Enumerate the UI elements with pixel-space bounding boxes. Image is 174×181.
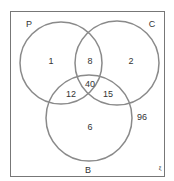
region-p-only: 1 [48,56,53,66]
set-label-c: C [149,19,156,29]
region-p-c: 8 [87,56,92,66]
set-label-p: P [26,19,32,29]
region-c-only: 2 [128,56,133,66]
region-c-b: 15 [103,89,113,99]
universe-symbol: ξ [159,165,162,171]
region-b-only: 6 [87,122,92,132]
region-outside: 96 [137,112,147,122]
region-p-b: 12 [66,89,76,99]
region-p-c-b: 40 [85,79,95,89]
set-label-b: B [85,165,91,175]
